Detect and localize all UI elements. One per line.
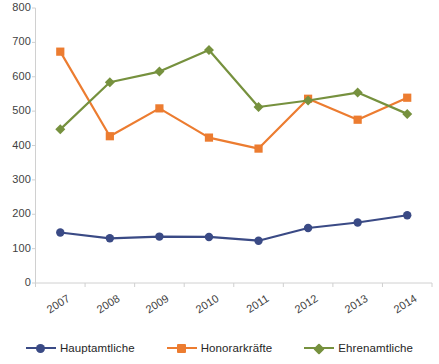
legend-label: Ehrenamtliche xyxy=(338,342,413,354)
data-point-marker xyxy=(254,237,262,245)
legend-swatch-icon xyxy=(26,342,56,354)
data-point-marker xyxy=(56,228,64,236)
y-tick-label: 700 xyxy=(1,36,31,47)
legend-item-ehrenamtliche[interactable]: Ehrenamtliche xyxy=(304,342,413,354)
y-tick-label: 200 xyxy=(1,208,31,219)
data-point-marker xyxy=(154,67,164,77)
legend-swatch-icon xyxy=(167,342,197,354)
data-point-marker xyxy=(254,144,262,152)
y-tick-label: 300 xyxy=(1,174,31,185)
series-hauptamtliche xyxy=(56,211,411,245)
legend-marker-square-icon xyxy=(177,344,186,353)
legend-marker-circle-icon xyxy=(36,344,45,353)
data-point-marker xyxy=(354,116,362,124)
y-tick-label: 600 xyxy=(1,71,31,82)
legend-marker-diamond-icon xyxy=(314,343,325,354)
data-point-marker xyxy=(353,218,361,226)
y-tick-label: 100 xyxy=(1,243,31,254)
data-point-marker xyxy=(353,88,363,98)
data-point-marker xyxy=(403,94,411,102)
data-point-marker xyxy=(402,109,412,119)
data-point-marker xyxy=(106,234,114,242)
y-tick-label: 400 xyxy=(1,140,31,151)
y-tick-label: 0 xyxy=(1,277,31,288)
legend-item-honorarkr-fte[interactable]: Honorarkräfte xyxy=(167,342,273,354)
chart-legend: HauptamtlicheHonorarkräfteEhrenamtliche xyxy=(0,337,439,359)
y-tick-label: 800 xyxy=(1,2,31,13)
y-tick-label: 500 xyxy=(1,105,31,116)
legend-label: Honorarkräfte xyxy=(201,342,273,354)
data-point-marker xyxy=(205,233,213,241)
data-point-marker xyxy=(403,211,411,219)
series-honorarkr-fte xyxy=(56,48,411,153)
legend-item-hauptamtliche[interactable]: Hauptamtliche xyxy=(26,342,135,354)
plot-area xyxy=(0,0,439,330)
line-chart: 0100200300400500600700800 20072008200920… xyxy=(0,0,439,364)
data-point-marker xyxy=(56,48,64,56)
legend-label: Hauptamtliche xyxy=(60,342,135,354)
data-point-marker xyxy=(205,133,213,141)
data-point-marker xyxy=(304,224,312,232)
y-axis: 0100200300400500600700800 xyxy=(0,0,31,330)
data-point-marker xyxy=(155,232,163,240)
data-point-marker xyxy=(155,104,163,112)
data-point-marker xyxy=(106,132,114,140)
legend-swatch-icon xyxy=(304,342,334,354)
